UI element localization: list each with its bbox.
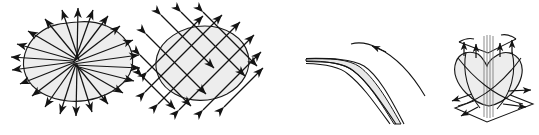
panel-crosshatched-blob	[140, 12, 263, 110]
folded-sheet-4	[459, 39, 516, 53]
panel-curved-band	[306, 43, 425, 124]
folded-sheet-top-4	[459, 39, 474, 42]
blob-outline-2	[156, 26, 249, 100]
figure-container	[0, 0, 539, 135]
geometry-figure	[0, 0, 539, 135]
ribbon-band-3	[306, 59, 401, 124]
panel-heart-surface	[452, 35, 533, 122]
panel-radial-focus-blob	[11, 8, 140, 116]
guide-arc-arrow-3	[372, 46, 386, 52]
folded-sheet-right-4	[501, 35, 516, 39]
